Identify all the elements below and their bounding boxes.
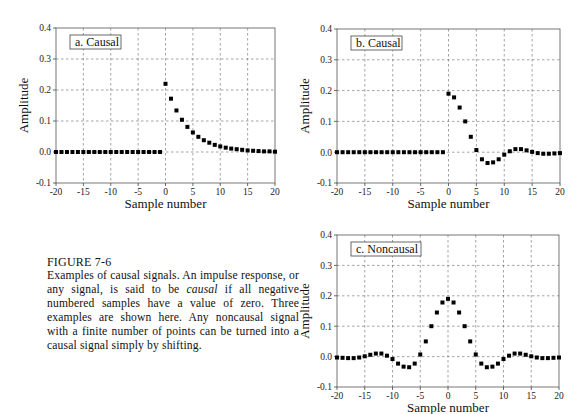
data-point [430, 150, 434, 154]
data-point [346, 150, 350, 154]
y-tick-label: 0.4 [320, 230, 332, 240]
x-tick-label: -15 [77, 187, 90, 197]
data-point [363, 354, 367, 358]
data-point [507, 354, 511, 358]
y-tick-label: 0.2 [320, 86, 332, 96]
data-point [224, 146, 228, 150]
data-point [335, 150, 339, 154]
data-point [551, 356, 555, 360]
data-point [257, 149, 261, 153]
data-point [429, 324, 433, 328]
y-tick-label: 0.0 [39, 147, 51, 157]
x-tick-label: 10 [500, 187, 510, 197]
data-point [546, 356, 550, 360]
data-point [136, 150, 140, 154]
data-point [142, 150, 146, 154]
data-point [196, 135, 200, 139]
x-tick-label: -20 [50, 187, 63, 197]
data-point [81, 150, 85, 154]
data-point [480, 157, 484, 161]
y-tick-label: 0.4 [320, 24, 332, 34]
x-axis-title: Sample number [125, 196, 208, 211]
figure-caption: FIGURE 7-6 Examples of causal signals. A… [47, 255, 299, 353]
data-point [457, 311, 461, 315]
data-point [513, 352, 517, 356]
figure-body: Examples of causal signals. An impulse r… [47, 269, 299, 353]
data-point [540, 356, 544, 360]
y-tick-label: 0.1 [39, 116, 51, 126]
panel-label: c. Noncausal [356, 242, 419, 256]
data-point [131, 150, 135, 154]
y-axis-title: Amplitude [297, 283, 312, 339]
data-point [98, 150, 102, 154]
data-point [114, 150, 118, 154]
data-point [229, 147, 233, 151]
data-point [486, 161, 490, 165]
data-point [535, 356, 539, 360]
data-point [357, 150, 361, 154]
data-point [463, 324, 467, 328]
data-point [374, 150, 378, 154]
data-point [59, 150, 63, 154]
data-point [335, 356, 339, 360]
x-tick-label: 15 [527, 391, 537, 401]
data-point [396, 362, 400, 366]
data-point [262, 149, 266, 153]
data-point [513, 147, 517, 151]
y-tick-label: 0.4 [39, 23, 51, 33]
data-point [536, 151, 540, 155]
chart-b: -0.10.00.10.20.30.4-20-15-10-505101520Sa… [297, 24, 565, 211]
x-tick-label: -10 [104, 187, 117, 197]
y-tick-label: 0.2 [39, 85, 51, 95]
data-point [413, 150, 417, 154]
data-point [402, 150, 406, 154]
x-tick-label: -20 [331, 391, 344, 401]
data-point [458, 106, 462, 110]
data-point [440, 300, 444, 304]
y-tick-label: 0.0 [320, 148, 332, 158]
data-point [407, 365, 411, 369]
x-tick-label: -15 [358, 391, 371, 401]
data-point [435, 311, 439, 315]
data-point [530, 150, 534, 154]
x-tick-label: -15 [359, 187, 372, 197]
data-point [213, 143, 217, 147]
chart-a: -0.10.00.10.20.30.4-20-15-10-505101520Sa… [16, 23, 280, 211]
data-point [158, 150, 162, 154]
data-point [202, 138, 206, 142]
data-point [407, 150, 411, 154]
data-point [418, 352, 422, 356]
data-point [125, 150, 129, 154]
data-point [452, 300, 456, 304]
data-point [218, 144, 222, 148]
data-point [547, 152, 551, 156]
data-point [524, 353, 528, 357]
data-point [246, 148, 250, 152]
data-point [363, 150, 367, 154]
data-point [469, 135, 473, 139]
data-point [251, 149, 255, 153]
data-point [446, 297, 450, 301]
data-point [109, 150, 113, 154]
data-point [435, 150, 439, 154]
data-point [497, 157, 501, 161]
data-point [474, 148, 478, 152]
data-point [153, 150, 157, 154]
data-point [368, 353, 372, 357]
data-point [92, 150, 96, 154]
x-tick-label: 20 [555, 187, 565, 197]
y-tick-label: 0.0 [320, 352, 332, 362]
data-point [552, 151, 556, 155]
x-tick-label: -10 [386, 391, 399, 401]
data-point [87, 150, 91, 154]
data-point [235, 147, 239, 151]
x-tick-label: 20 [270, 187, 280, 197]
data-point [169, 97, 173, 101]
data-point [191, 130, 195, 134]
x-tick-label: 10 [216, 187, 226, 197]
data-point [341, 150, 345, 154]
data-point [396, 150, 400, 154]
data-point [374, 352, 378, 356]
y-axis-title: Amplitude [297, 78, 312, 134]
data-point [346, 356, 350, 360]
